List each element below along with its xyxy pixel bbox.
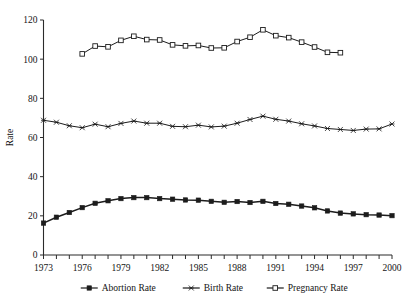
data-point-marker: [222, 124, 227, 129]
data-point-marker: [273, 117, 278, 122]
data-point-marker: [93, 122, 98, 127]
data-point-marker: [312, 45, 317, 50]
data-point-marker: [351, 212, 355, 216]
data-point-marker: [261, 199, 265, 203]
data-point-marker: [299, 121, 304, 126]
data-point-marker: [209, 124, 214, 129]
data-point-marker: [189, 286, 194, 291]
x-tick-label: 1985: [189, 263, 208, 273]
x-tick-label: 1994: [305, 263, 324, 273]
data-point-marker: [390, 121, 395, 126]
y-tick-label: 20: [28, 211, 38, 221]
data-point-marker: [170, 197, 174, 201]
data-point-marker: [54, 120, 59, 125]
data-point-marker: [364, 127, 369, 132]
data-point-marker: [132, 34, 137, 39]
y-axis-title: Rate: [5, 129, 15, 146]
data-point-marker: [299, 40, 304, 45]
data-point-marker: [196, 123, 201, 128]
data-point-marker: [338, 50, 343, 55]
data-point-marker: [209, 199, 213, 203]
legend-item-birth-rate: Birth Rate: [183, 283, 243, 293]
data-point-marker: [106, 124, 111, 129]
x-tick-label: 1991: [266, 263, 285, 273]
data-point-marker: [157, 38, 162, 43]
data-point-marker: [377, 126, 382, 131]
legend-label: Pregnancy Rate: [288, 283, 348, 293]
series-pregnancy-rate: [80, 27, 343, 56]
legend-item-abortion-rate: Abortion Rate: [81, 283, 156, 293]
data-point-marker: [87, 286, 91, 290]
data-point-marker: [325, 209, 329, 213]
x-tick-label: 1997: [344, 263, 363, 273]
data-point-marker: [299, 204, 303, 208]
data-series-group: [41, 27, 395, 225]
series-birth-rate: [41, 114, 395, 133]
data-point-marker: [144, 37, 149, 42]
y-tick-label: 0: [33, 250, 38, 260]
x-tick-label: 1973: [34, 263, 53, 273]
data-point-marker: [119, 196, 123, 200]
data-point-marker: [170, 124, 175, 129]
data-point-marker: [325, 50, 330, 55]
data-point-marker: [93, 44, 98, 49]
data-point-marker: [286, 119, 291, 124]
y-tick-label: 100: [23, 55, 38, 65]
data-point-marker: [196, 198, 200, 202]
y-tick-label: 120: [23, 15, 38, 25]
data-point-marker: [248, 117, 253, 122]
data-point-marker: [351, 128, 356, 133]
line-chart: 020406080100120 197319761979198219851988…: [0, 0, 405, 305]
data-point-marker: [80, 125, 85, 130]
legend-label: Abortion Rate: [102, 283, 156, 293]
data-point-marker: [377, 213, 381, 217]
data-point-marker: [287, 202, 291, 206]
legend-label: Birth Rate: [204, 283, 243, 293]
data-point-marker: [273, 286, 278, 291]
data-point-marker: [235, 199, 239, 203]
data-point-marker: [390, 213, 394, 217]
y-tick-label: 80: [28, 94, 38, 104]
data-point-marker: [67, 123, 72, 128]
data-point-marker: [170, 43, 175, 48]
data-point-marker: [118, 121, 123, 126]
data-point-marker: [67, 210, 71, 214]
data-point-marker: [338, 211, 342, 215]
x-tick-label: 2000: [383, 263, 402, 273]
series-abortion-rate: [41, 195, 394, 225]
data-point-marker: [364, 212, 368, 216]
x-tick-label: 1979: [111, 263, 130, 273]
data-point-marker: [261, 27, 266, 32]
data-point-marker: [80, 205, 84, 209]
data-point-marker: [338, 127, 343, 132]
data-point-marker: [119, 38, 124, 43]
data-point-marker: [144, 121, 149, 126]
data-point-marker: [235, 39, 240, 44]
data-point-marker: [132, 195, 136, 199]
x-tick-label: 1988: [228, 263, 247, 273]
data-point-marker: [209, 46, 214, 51]
data-point-marker: [248, 35, 253, 40]
data-point-marker: [274, 33, 279, 38]
data-point-marker: [222, 46, 227, 51]
data-point-marker: [145, 195, 149, 199]
chart-legend: Abortion RateBirth RatePregnancy Rate: [81, 283, 348, 293]
chart-figure: 020406080100120 197319761979198219851988…: [0, 0, 405, 305]
data-point-marker: [183, 124, 188, 129]
data-point-marker: [196, 43, 201, 48]
data-point-marker: [183, 198, 187, 202]
data-point-marker: [260, 114, 265, 119]
data-point-marker: [274, 201, 278, 205]
data-point-marker: [157, 121, 162, 126]
data-point-marker: [41, 221, 45, 225]
data-point-marker: [235, 121, 240, 126]
y-tick-label: 40: [28, 172, 38, 182]
data-point-marker: [248, 200, 252, 204]
y-axis-ticks: 020406080100120: [23, 15, 43, 260]
data-point-marker: [312, 123, 317, 128]
data-point-marker: [183, 44, 188, 49]
y-tick-label: 60: [28, 133, 38, 143]
data-point-marker: [157, 196, 161, 200]
data-point-marker: [106, 45, 111, 50]
data-point-marker: [131, 119, 136, 124]
